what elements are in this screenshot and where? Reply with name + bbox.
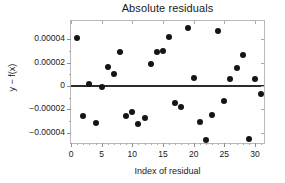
data-point	[154, 49, 160, 55]
plot-area: 0.000040.000020−0.00002−0.00004051015202…	[70, 20, 265, 144]
y-axis-tick	[67, 39, 71, 40]
x-axis-tick-top	[255, 21, 256, 24]
x-axis-minor-tick	[157, 143, 158, 145]
y-axis-tick	[67, 133, 71, 134]
data-point	[160, 48, 166, 54]
x-axis-minor-tick	[108, 143, 109, 145]
x-axis-tick-top	[163, 21, 164, 24]
data-point	[185, 25, 191, 31]
y-axis-minor-tick	[69, 121, 71, 122]
data-point	[172, 100, 178, 106]
data-point	[221, 98, 227, 104]
x-axis-tick-top	[132, 21, 133, 24]
data-point	[74, 35, 80, 41]
data-point	[246, 136, 252, 142]
x-axis-minor-tick	[212, 143, 213, 145]
x-axis-tick-top	[71, 21, 72, 24]
x-axis-minor-tick	[237, 143, 238, 145]
x-axis-tick	[163, 143, 164, 147]
data-point	[191, 75, 197, 81]
data-point	[117, 49, 123, 55]
x-axis-minor-tick	[261, 143, 262, 145]
x-axis-tick	[194, 143, 195, 147]
x-axis-minor-tick	[218, 143, 219, 145]
data-point	[203, 137, 209, 143]
x-axis-minor-tick	[114, 143, 115, 145]
x-axis-tick-top	[224, 21, 225, 24]
data-point	[148, 61, 154, 67]
x-axis-tick-label: 30	[240, 150, 270, 159]
data-point	[80, 113, 86, 119]
y-axis-tick	[67, 63, 71, 64]
y-axis-tick-label: −0.00004	[7, 128, 65, 137]
x-axis-tick	[71, 143, 72, 147]
y-axis-tick-right	[261, 133, 264, 134]
x-axis-minor-tick	[206, 143, 207, 145]
y-axis-tick	[67, 109, 71, 110]
data-point	[111, 71, 117, 77]
data-point	[93, 120, 99, 126]
chart-title: Absolute residuals	[70, 2, 265, 15]
data-point	[252, 76, 258, 82]
x-axis-minor-tick	[77, 143, 78, 145]
x-axis-minor-tick	[96, 143, 97, 145]
x-axis-minor-tick	[200, 143, 201, 145]
y-axis-tick-right	[261, 109, 264, 110]
x-axis-tick-label: 25	[209, 150, 239, 159]
x-axis-minor-tick	[243, 143, 244, 145]
x-axis-minor-tick	[145, 143, 146, 145]
data-point	[209, 112, 215, 118]
x-axis-tick-label: 20	[179, 150, 209, 159]
y-axis-title: y − f(x)	[7, 28, 18, 128]
data-point	[258, 91, 264, 97]
data-point	[227, 76, 233, 82]
y-axis-tick	[67, 86, 71, 87]
data-point	[142, 115, 148, 121]
data-point	[240, 52, 246, 58]
x-axis-minor-tick	[181, 143, 182, 145]
x-axis-minor-tick	[249, 143, 250, 145]
data-point	[197, 119, 203, 125]
data-point	[105, 64, 111, 70]
x-axis-minor-tick	[230, 143, 231, 145]
x-axis-minor-tick	[126, 143, 127, 145]
x-axis-tick-label: 15	[148, 150, 178, 159]
residual-scatter-figure: Absolute residuals 0.000040.000020−0.000…	[0, 0, 285, 183]
x-axis-tick	[132, 143, 133, 147]
data-point	[178, 104, 184, 110]
x-axis-tick	[102, 143, 103, 147]
y-axis-tick-right	[261, 86, 264, 87]
y-axis-minor-tick	[69, 98, 71, 99]
x-axis-minor-tick	[83, 143, 84, 145]
data-point	[234, 65, 240, 71]
x-axis-tick	[224, 143, 225, 147]
y-axis-tick-right	[261, 39, 264, 40]
y-axis-minor-tick	[69, 51, 71, 52]
data-point	[135, 121, 141, 127]
y-axis-tick-right	[261, 63, 264, 64]
data-point	[166, 34, 172, 40]
x-axis-minor-tick	[175, 143, 176, 145]
x-axis-tick-top	[194, 21, 195, 24]
x-axis-minor-tick	[89, 143, 90, 145]
x-axis-minor-tick	[120, 143, 121, 145]
data-point	[215, 28, 221, 34]
x-axis-tick-label: 0	[56, 150, 86, 159]
x-axis-tick	[255, 143, 256, 147]
x-axis-tick-label: 10	[117, 150, 147, 159]
data-point	[129, 109, 135, 115]
x-axis-minor-tick	[169, 143, 170, 145]
x-axis-minor-tick	[138, 143, 139, 145]
x-axis-minor-tick	[188, 143, 189, 145]
plot-inner: 0.000040.000020−0.00002−0.00004051015202…	[71, 21, 264, 143]
x-axis-tick-label: 5	[87, 150, 117, 159]
data-point	[99, 84, 105, 90]
data-point	[123, 113, 129, 119]
x-axis-minor-tick	[151, 143, 152, 145]
x-axis-tick-top	[102, 21, 103, 24]
y-axis-minor-tick	[69, 74, 71, 75]
x-axis-title: Index of residual	[70, 166, 265, 177]
